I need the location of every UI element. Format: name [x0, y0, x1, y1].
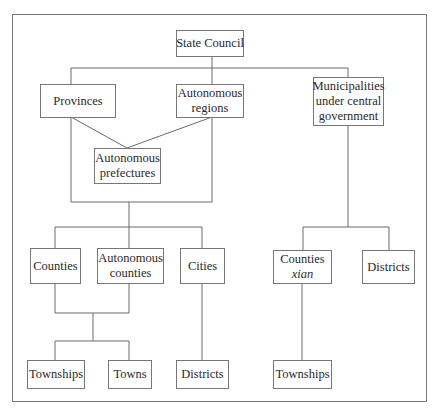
- node-townships: Townships: [27, 360, 85, 389]
- node-municipalities: Municipalities under central government: [313, 77, 384, 126]
- node-provinces: Provinces: [40, 84, 116, 118]
- node-autonomous-regions: Autonomous regions: [176, 84, 244, 118]
- node-city-districts: Districts: [176, 360, 229, 389]
- node-towns: Towns: [108, 360, 152, 389]
- node-counties: Counties: [30, 248, 81, 284]
- node-state-council: State Council: [176, 30, 244, 57]
- node-autonomous-prefectures: Autonomous prefectures: [94, 148, 161, 184]
- node-autonomous-counties: Autonomous counties: [97, 248, 164, 284]
- connector-lines: [0, 0, 438, 413]
- node-municipal-districts: Districts: [362, 250, 415, 284]
- node-counties-xian: Counties xian: [273, 250, 332, 284]
- node-xian-townships: Townships: [273, 360, 332, 389]
- node-cities: Cities: [180, 248, 225, 284]
